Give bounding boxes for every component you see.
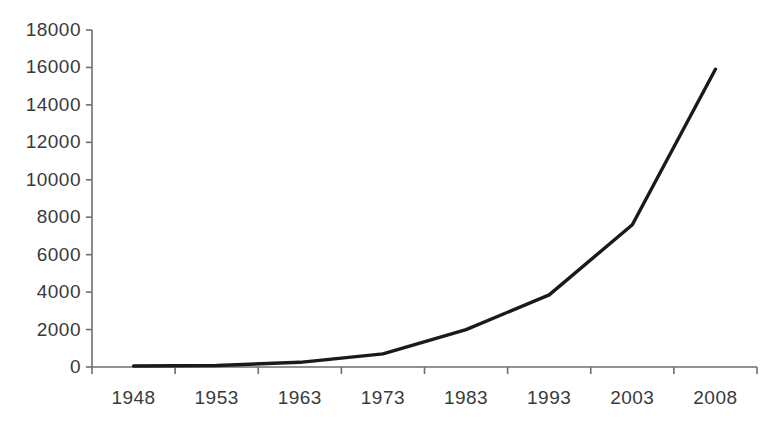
y-axis-tick-label: 16000	[26, 56, 81, 78]
y-axis-tick-label: 6000	[37, 244, 81, 266]
y-axis-ticks	[86, 30, 92, 367]
x-axis-ticks	[92, 367, 757, 374]
x-axis-tick-label: 1963	[278, 387, 322, 409]
x-axis-tick-label: 2003	[610, 387, 654, 409]
y-axis-tick-label: 18000	[26, 19, 81, 41]
y-axis-tick-label: 2000	[37, 319, 81, 341]
y-axis-tick-label: 14000	[26, 94, 81, 116]
y-axis-tick-label: 8000	[37, 206, 81, 228]
x-axis-tick-label: 1953	[195, 387, 239, 409]
y-axis-tick-label: 0	[70, 356, 81, 378]
y-axis-tick-label: 12000	[26, 131, 81, 153]
y-axis-tick-label: 10000	[26, 169, 81, 191]
x-axis-tick-label: 2008	[693, 387, 737, 409]
line-chart: 1800016000140001200010000800060004000200…	[0, 0, 781, 432]
data-series-line	[134, 69, 716, 366]
x-axis-tick-label: 1948	[111, 387, 155, 409]
x-axis-tick-label: 1983	[444, 387, 488, 409]
x-axis-tick-label: 1993	[527, 387, 571, 409]
x-axis-tick-label: 1973	[361, 387, 405, 409]
y-axis-tick-label: 4000	[37, 281, 81, 303]
chart-plot-area	[0, 0, 781, 432]
